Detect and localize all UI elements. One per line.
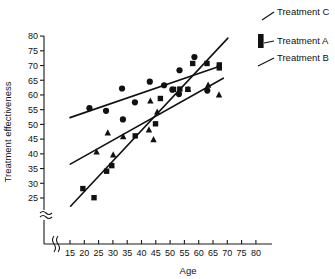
x-tick-label: 45 [151,248,161,258]
data-point-square [217,65,222,70]
leader-line-treatment-c [262,12,274,20]
scatter-plot-figure: 253035404550556065707580 152025303540455… [0,0,335,279]
x-tick-label: 15 [65,248,75,258]
data-point-circle [147,79,153,85]
x-axis-title: Age [180,265,197,276]
x-tick-label: 20 [79,248,89,258]
y-tick-label: 45 [28,134,38,144]
x-tick-label: 25 [94,248,104,258]
y-tick-label: 80 [28,31,38,41]
data-point-square [204,61,209,66]
data-point-square [109,163,114,168]
legend-label-treatment-c: Treatment C [277,6,330,17]
x-tick-label: 55 [179,248,189,258]
x-tick-label: 80 [251,248,261,258]
y-tick-label: 25 [28,193,38,203]
data-point-triangle [105,129,111,135]
data-point-circle [86,105,92,111]
x-tick-label: 60 [194,248,204,258]
data-point-triangle [150,136,156,142]
trend-lines [70,38,228,206]
data-point-square [190,61,195,66]
x-tick-label: 75 [237,248,247,258]
y-tick-label: 70 [28,61,38,71]
leader-line-treatment-b [258,58,274,66]
x-tick-label: 65 [208,248,218,258]
y-tick-label: 35 [28,164,38,174]
data-point-circle [103,108,109,114]
data-point-square [104,169,109,174]
data-point-circle [191,54,197,60]
x-axis-ticks: 1520253035404550556065707580 [65,240,261,258]
x-tick-label: 70 [222,248,232,258]
plot-canvas: 253035404550556065707580 152025303540455… [0,0,335,279]
x-tick-label: 35 [122,248,132,258]
y-axis-break-icon [40,212,52,219]
data-point-circle [176,67,182,73]
x-tick-label: 50 [165,248,175,258]
y-tick-label: 60 [28,90,38,100]
y-tick-label: 55 [28,105,38,115]
data-point-circle [204,87,210,93]
data-markers [80,34,263,200]
legend-label-treatment-b: Treatment B [277,52,329,63]
data-point-square [80,186,85,191]
legend-marker-treatment-a [258,34,264,48]
data-point-circle [120,116,126,122]
x-tick-label: 30 [108,248,118,258]
leader-line-treatment-a [264,41,274,43]
data-point-square [133,133,138,138]
data-point-circle [169,87,175,93]
data-point-triangle [147,97,153,103]
data-point-square [158,96,163,101]
data-point-circle [161,82,167,88]
data-point-square [153,121,158,126]
data-point-triangle [110,151,116,157]
y-tick-label: 50 [28,120,38,130]
data-point-triangle [216,91,222,97]
data-point-square [177,86,182,91]
data-point-triangle [146,126,152,132]
data-point-square [91,195,96,200]
data-point-circle [176,91,182,97]
legend-label-treatment-a: Treatment A [277,35,329,46]
y-tick-label: 65 [28,76,38,86]
data-point-circle [132,99,138,105]
trend-line-treatment-a [71,38,228,206]
y-tick-label: 30 [28,179,38,189]
y-tick-label: 75 [28,46,38,56]
data-point-circle [119,85,125,91]
y-axis-title: Treatment effectiveness [2,81,13,182]
x-tick-label: 40 [136,248,146,258]
y-tick-label: 40 [28,149,38,159]
y-axis-ticks: 253035404550556065707580 [28,31,44,203]
